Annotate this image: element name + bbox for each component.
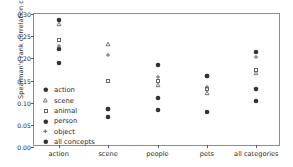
chart-legend: actionsceneanimalpersonobjectall concept…	[39, 85, 95, 147]
data-point	[56, 60, 62, 66]
legend-item-object[interactable]: object	[39, 127, 95, 137]
y-tick-label: 0.25	[17, 33, 31, 40]
legend-item-label: action	[54, 86, 75, 94]
x-tick-label: people	[146, 150, 168, 158]
legend-marker-icon	[39, 129, 52, 134]
chart-figure: Spearman's rank correlation coefficient …	[0, 0, 293, 167]
data-point	[57, 38, 61, 42]
legend-item-label: animal	[54, 107, 77, 115]
legend-marker-icon	[39, 139, 52, 145]
y-tick-label: 0.20	[17, 55, 31, 62]
x-tick-label: scene	[98, 150, 117, 158]
data-point	[106, 41, 111, 46]
y-tick-label: 0.15	[17, 77, 31, 84]
data-point	[204, 109, 210, 115]
x-tick-mark	[158, 145, 159, 148]
legend-item-animal[interactable]: animal	[39, 106, 95, 116]
legend-marker-icon	[39, 119, 52, 125]
data-point	[254, 68, 258, 72]
legend-item-scene[interactable]: scene	[39, 95, 95, 105]
legend-item-person[interactable]: person	[39, 116, 95, 126]
data-point	[105, 107, 111, 113]
data-point	[254, 49, 260, 55]
data-point	[155, 75, 160, 80]
data-point	[155, 107, 161, 113]
data-point	[254, 98, 260, 104]
legend-marker-icon	[39, 87, 52, 93]
data-point	[56, 44, 61, 49]
x-tick-mark	[108, 145, 109, 148]
data-point	[155, 83, 160, 88]
y-tick-mark	[31, 14, 34, 15]
x-tick-mark	[207, 145, 208, 148]
data-point	[254, 54, 259, 59]
legend-item-action[interactable]: action	[39, 85, 95, 95]
legend-item-all-concepts[interactable]: all concepts	[39, 137, 95, 147]
data-point	[105, 114, 111, 120]
legend-item-label: person	[54, 117, 77, 125]
legend-marker-icon	[39, 98, 52, 103]
y-tick-label: 0.10	[17, 99, 31, 106]
data-point	[204, 73, 210, 79]
plot-area: 0.000.050.100.150.200.250.30 actionscene…	[33, 13, 280, 146]
y-tick-mark	[31, 58, 34, 59]
data-point	[56, 21, 61, 26]
y-tick-label: 0.30	[17, 11, 31, 18]
data-point	[156, 79, 160, 83]
data-point	[254, 87, 260, 93]
legend-item-label: all concepts	[54, 138, 95, 146]
y-tick-mark	[31, 36, 34, 37]
data-point	[106, 53, 111, 58]
x-tick-label: pets	[200, 150, 214, 158]
y-tick-mark	[31, 81, 34, 82]
legend-item-label: scene	[54, 97, 74, 105]
data-point	[106, 79, 110, 83]
legend-item-label: object	[54, 128, 75, 136]
y-tick-mark	[31, 103, 34, 104]
y-tick-mark	[31, 125, 34, 126]
data-point	[155, 95, 161, 101]
y-tick-label: 0.00	[17, 144, 31, 151]
x-tick-label: action	[49, 150, 69, 158]
x-tick-label: all categories	[234, 150, 278, 158]
x-tick-mark	[256, 145, 257, 148]
y-tick-mark	[31, 147, 34, 148]
y-tick-label: 0.05	[17, 121, 31, 128]
data-point	[155, 63, 161, 69]
data-point	[205, 85, 210, 90]
legend-marker-icon	[39, 109, 52, 113]
